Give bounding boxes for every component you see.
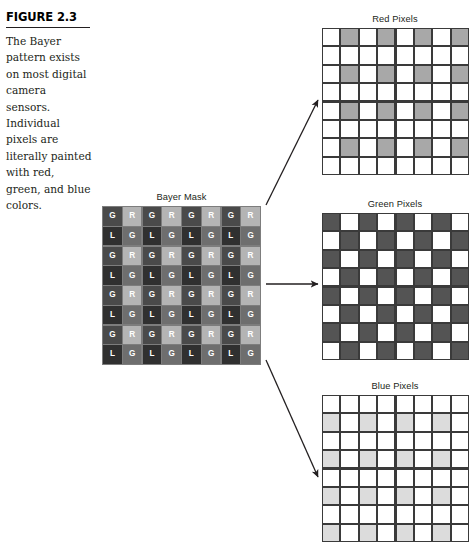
bayer-cell: G [241,345,260,364]
green-pixels-title: Green Pixels [322,199,468,209]
bayer-cell: G [123,227,142,246]
green-pixel-cell [323,214,340,231]
bayer-cell: G [182,286,201,305]
green-pixel-cell [433,269,450,286]
blue-pixel-cell [452,451,469,468]
green-pixel-cell [415,288,432,305]
red-pixel-cell [415,158,432,175]
red-pixel-cell [341,121,358,138]
figure-caption-block: FIGURE 2.3 The Bayer pattern exists on m… [6,10,92,213]
red-pixel-cell [415,47,432,64]
red-pixel-cell [452,139,469,156]
green-pixel-cell [378,214,395,231]
blue-pixel-cell [433,396,450,413]
blue-pixel-cell [360,470,377,487]
bayer-cell: G [103,247,122,266]
green-pixel-cell [397,343,414,360]
blue-pixel-cell [323,433,340,450]
red-pixel-cell [433,29,450,46]
red-pixel-cell [341,66,358,83]
red-pixel-cell [360,29,377,46]
green-pixel-cell [452,251,469,268]
bayer-cell: L [182,266,201,285]
blue-pixel-cell [341,414,358,431]
red-pixel-cell [323,158,340,175]
blue-pixels-title: Blue Pixels [322,381,468,391]
red-pixel-cell [452,103,469,120]
green-pixels-panel: Green Pixels [322,199,468,360]
green-pixel-cell [397,214,414,231]
bayer-cell: G [222,247,241,266]
red-pixel-cell [378,84,395,101]
blue-pixel-cell [360,414,377,431]
red-pixel-cell [378,29,395,46]
green-pixel-cell [323,343,340,360]
red-pixel-cell [433,158,450,175]
green-pixel-cell [323,251,340,268]
red-pixels-grid [322,28,469,175]
blue-pixel-cell [397,451,414,468]
red-pixel-cell [397,158,414,175]
red-pixel-cell [360,158,377,175]
blue-pixel-cell [341,433,358,450]
green-pixel-cell [415,251,432,268]
red-pixel-cell [415,66,432,83]
blue-pixel-cell [433,433,450,450]
blue-pixel-cell [378,470,395,487]
blue-pixel-cell [397,396,414,413]
red-pixels-title: Red Pixels [322,14,468,24]
bayer-cell: L [222,306,241,325]
green-pixel-cell [433,288,450,305]
red-pixel-cell [415,103,432,120]
bayer-cell: L [182,306,201,325]
blue-pixel-cell [378,525,395,542]
bayer-cell: L [103,266,122,285]
bayer-cell: R [241,286,260,305]
green-pixel-cell [433,232,450,249]
blue-pixel-cell [341,488,358,505]
green-pixel-cell [397,232,414,249]
blue-pixel-cell [397,525,414,542]
red-pixel-cell [323,84,340,101]
bayer-cell: R [202,207,221,226]
red-pixel-cell [397,47,414,64]
blue-pixel-cell [360,488,377,505]
blue-pixel-cell [323,506,340,523]
bayer-cell: G [202,227,221,246]
green-pixel-cell [397,324,414,341]
blue-pixel-cell [341,506,358,523]
green-pixel-cell [397,251,414,268]
red-pixel-cell [397,121,414,138]
bayer-cell: R [162,207,181,226]
bayer-cell: L [103,306,122,325]
bayer-cell: G [123,266,142,285]
blue-pixel-cell [323,414,340,431]
red-pixel-cell [415,29,432,46]
bayer-cell: G [103,286,122,305]
red-pixel-cell [341,139,358,156]
red-pixel-cell [452,121,469,138]
bayer-cell: R [123,326,142,345]
blue-pixel-cell [452,433,469,450]
blue-pixel-cell [433,451,450,468]
green-pixel-cell [341,269,358,286]
bayer-cell: G [202,266,221,285]
green-pixel-cell [360,306,377,323]
blue-pixel-cell [341,525,358,542]
blue-pixel-cell [452,396,469,413]
green-pixel-cell [433,306,450,323]
arrow-to-blue-pixels [266,360,318,477]
bayer-cell: G [182,207,201,226]
green-pixel-cell [360,269,377,286]
red-pixel-cell [397,139,414,156]
blue-pixels-panel: Blue Pixels [322,381,468,542]
green-pixel-cell [323,288,340,305]
blue-pixel-cell [323,525,340,542]
bayer-cell: R [162,247,181,266]
green-pixel-cell [360,288,377,305]
green-pixel-cell [452,232,469,249]
blue-pixel-cell [415,396,432,413]
bayer-cell: R [123,207,142,226]
blue-pixel-cell [397,506,414,523]
blue-pixel-cell [378,396,395,413]
